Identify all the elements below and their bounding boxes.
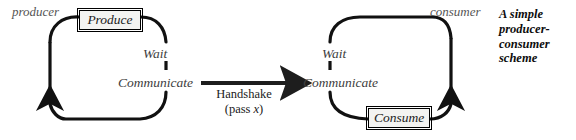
handshake-label-line2: (pass x) <box>200 103 288 116</box>
produce-node: Produce <box>79 10 141 30</box>
handshake-label-line1: Handshake <box>200 88 288 101</box>
figure-caption: A simple producer- consumer scheme <box>499 7 550 66</box>
consumer-actor-label: consumer <box>430 5 481 18</box>
figure-caption-line: consumer <box>499 37 550 52</box>
producer-consumer-diagram: producer Produce Wait Communicate Handsh… <box>0 0 576 140</box>
consumer-wait-label: Wait <box>322 47 346 61</box>
consume-node-label: Consume <box>374 110 424 126</box>
producer-actor-label: producer <box>12 5 59 18</box>
consumer-communicate-label: Communicate <box>303 76 378 90</box>
producer-cycle-path <box>50 17 166 119</box>
producer-communicate-label: Communicate <box>118 76 193 90</box>
consume-node: Consume <box>368 108 430 128</box>
handshake-label: Handshake (pass x) <box>200 88 288 115</box>
producer-wait-label: Wait <box>143 47 167 61</box>
figure-caption-line: A simple <box>499 7 550 22</box>
figure-caption-line: scheme <box>499 51 550 66</box>
produce-node-label: Produce <box>87 12 132 28</box>
consumer-cycle-path <box>330 17 451 119</box>
handshake-pass-prefix: (pass <box>225 102 254 116</box>
figure-caption-line: producer- <box>499 22 550 37</box>
handshake-pass-suffix: ) <box>259 102 263 116</box>
